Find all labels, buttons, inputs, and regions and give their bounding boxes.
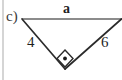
side-label-right: 6 <box>101 35 109 50</box>
side-label-left: 4 <box>27 35 35 50</box>
triangle-right-side <box>65 19 122 69</box>
part-label: c) <box>6 9 18 24</box>
right-angle-dot-icon <box>63 57 67 61</box>
geometry-figure: c) a 4 6 <box>0 0 122 80</box>
side-label-top: a <box>63 2 70 16</box>
